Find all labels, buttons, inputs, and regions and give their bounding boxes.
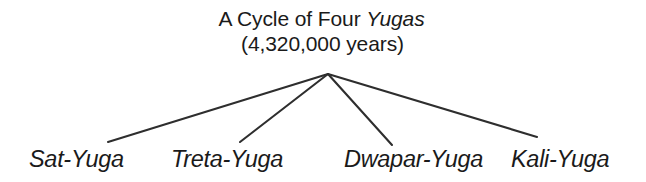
yuga-cycle-diagram: A Cycle of Four Yugas (4,320,000 years) … <box>0 0 646 182</box>
connector-line-dwapar-yuga <box>328 74 392 145</box>
title-prefix-text: A Cycle of Four <box>218 7 366 30</box>
leaf-label-kali-yuga: Kali-Yuga <box>511 146 609 172</box>
title-line-primary: A Cycle of Four Yugas <box>0 6 646 31</box>
title-line-duration: (4,320,000 years) <box>0 31 646 56</box>
connector-line-kali-yuga <box>328 74 537 137</box>
leaf-label-dwapar-yuga: Dwapar-Yuga <box>344 146 483 172</box>
diagram-title: A Cycle of Four Yugas (4,320,000 years) <box>0 6 646 56</box>
leaf-label-sat-yuga: Sat-Yuga <box>29 146 124 172</box>
leaf-label-treta-yuga: Treta-Yuga <box>171 146 283 172</box>
connector-line-sat-yuga <box>108 74 328 142</box>
title-emphasis-yugas: Yugas <box>366 7 424 30</box>
connector-line-treta-yuga <box>240 74 328 142</box>
